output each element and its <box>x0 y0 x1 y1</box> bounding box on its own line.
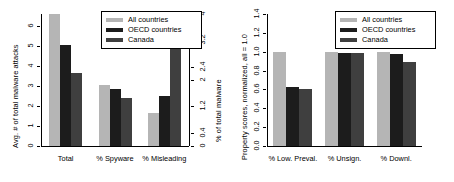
x-axis-tick-label: % Misleading <box>142 154 186 163</box>
y-axis-tick-label: 1.4 <box>252 7 261 21</box>
y-axis-tick <box>37 46 40 47</box>
bar <box>148 113 159 146</box>
legend-swatch-icon <box>106 18 123 22</box>
secondary-y-axis-tick <box>191 106 194 107</box>
right-chart-y-axis-title: Property scores, normalized, all = 1.0 <box>240 34 249 160</box>
x-axis-line <box>41 146 189 147</box>
right-chart-legend: All countriesOECD countriesCanada <box>335 11 436 49</box>
legend-swatch-icon <box>106 38 123 42</box>
y-axis-tick <box>263 33 266 34</box>
left-chart-y-axis-title: Avg. # of total malware attacks <box>11 44 20 148</box>
y-axis-tick <box>37 86 40 87</box>
legend-item-label: Canada <box>128 35 154 45</box>
bar <box>71 73 82 146</box>
legend-item-label: All countries <box>128 15 168 25</box>
legend-swatch-icon <box>340 28 357 32</box>
secondary-y-axis-tick-label: 2.4 <box>198 59 207 73</box>
y-axis-tick <box>263 127 266 128</box>
bar <box>99 85 110 146</box>
y-axis-tick-label: 5 <box>26 39 35 53</box>
legend-swatch-icon <box>340 18 357 22</box>
y-axis-tick-label: 4 <box>26 59 35 73</box>
secondary-y-axis-tick-label: 1.2 <box>198 99 207 113</box>
y-axis-line <box>267 14 268 146</box>
bar <box>286 87 299 146</box>
y-axis-line <box>41 14 42 146</box>
y-axis-tick-label: 1 <box>26 119 35 133</box>
y-axis-tick-label: 2 <box>26 99 35 113</box>
y-axis-tick-label: 0.6 <box>252 82 261 96</box>
malware-statistics-figure: Avg. # of total malware attacks % of tot… <box>0 0 454 182</box>
x-axis-tick-label: % Low. Preval. <box>268 154 317 163</box>
bar <box>299 89 312 146</box>
legend-item: Canada <box>340 35 430 45</box>
secondary-y-axis-tick <box>191 80 194 81</box>
legend-swatch-icon <box>106 28 123 32</box>
y-axis-tick <box>263 14 266 15</box>
left-chart-panel: Avg. # of total malware attacks % of tot… <box>0 0 227 182</box>
legend-item: OECD countries <box>106 25 196 35</box>
legend-item-label: OECD countries <box>128 25 181 35</box>
left-chart-legend: All countriesOECD countriesCanada <box>101 11 202 49</box>
y-axis-tick <box>37 146 40 147</box>
bar <box>338 53 351 146</box>
bar <box>60 45 71 146</box>
secondary-y-axis-tick-label: 2 <box>198 73 207 87</box>
left-chart-secondary-y-axis-title: % of total malware <box>214 79 223 142</box>
bar <box>390 54 403 146</box>
secondary-y-axis-tick-label: 0 <box>198 139 207 153</box>
y-axis-tick <box>263 52 266 53</box>
y-axis-tick <box>263 146 266 147</box>
y-axis-tick <box>37 126 40 127</box>
bar <box>325 52 338 146</box>
bar <box>351 53 364 146</box>
right-chart-panel: Property scores, normalized, all = 1.0 0… <box>227 0 454 182</box>
x-axis-tick-label: % Unsign. <box>328 154 362 163</box>
y-axis-tick-label: 0.4 <box>252 101 261 115</box>
y-axis-tick-label: 0.8 <box>252 63 261 77</box>
secondary-y-axis-tick <box>191 146 194 147</box>
y-axis-tick-label: 1.0 <box>252 44 261 58</box>
bar <box>403 62 416 146</box>
x-axis-tick-label: % Spyware <box>96 154 133 163</box>
y-axis-tick <box>263 71 266 72</box>
y-axis-tick-label: 0.0 <box>252 139 261 153</box>
secondary-y-axis-tick-label: 0.4 <box>198 125 207 139</box>
x-axis-line <box>267 146 422 147</box>
y-axis-tick <box>263 108 266 109</box>
y-axis-tick-label: 0 <box>26 139 35 153</box>
secondary-y-axis-tick <box>191 133 194 134</box>
legend-item: OECD countries <box>340 25 430 35</box>
bar <box>273 52 286 146</box>
legend-item-label: All countries <box>362 15 402 25</box>
bar <box>121 98 132 147</box>
y-axis-tick <box>37 26 40 27</box>
secondary-y-axis-tick <box>191 67 194 68</box>
x-axis-tick-label: % Downl. <box>381 154 412 163</box>
legend-item-label: Canada <box>362 35 388 45</box>
bar <box>170 39 181 146</box>
y-axis-tick-label: 1.2 <box>252 25 261 39</box>
bar <box>110 89 121 146</box>
bar <box>49 14 60 146</box>
legend-item: All countries <box>340 15 430 25</box>
y-axis-tick <box>37 106 40 107</box>
y-axis-tick-label: 0.2 <box>252 120 261 134</box>
y-axis-tick <box>263 89 266 90</box>
bar <box>377 52 390 146</box>
bar <box>159 96 170 146</box>
legend-item-label: OECD countries <box>362 25 415 35</box>
legend-item: All countries <box>106 15 196 25</box>
y-axis-tick <box>37 66 40 67</box>
legend-item: Canada <box>106 35 196 45</box>
legend-swatch-icon <box>340 38 357 42</box>
y-axis-tick-label: 6 <box>26 19 35 33</box>
y-axis-tick-label: 3 <box>26 79 35 93</box>
x-axis-tick-label: Total <box>58 154 74 163</box>
